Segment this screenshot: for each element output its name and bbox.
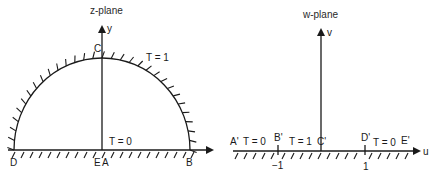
z-point-b-label: B [186,157,193,168]
w-u-axis-label: u [423,146,429,157]
w-point-e-label: E' [401,135,410,146]
z-plane-diagram: z-plane y [7,5,212,168]
z-point-a-label: A [102,157,109,168]
w-plane-diagram: w-plane u v [230,9,429,172]
w-segment-right-label: T = 0 [373,137,396,148]
w-segment-middle-label: T = 1 [289,136,312,147]
w-plane-title: w-plane [302,9,338,20]
w-point-d-label: D' [361,132,370,143]
w-point-c-label: C' [317,136,326,147]
z-point-c-label: C [94,43,101,54]
z-base-boundary-label: T = 0 [109,136,132,147]
w-tick-neg-one-label: −1 [272,160,284,171]
w-segment-left-label: T = 0 [243,136,266,147]
w-point-a-label: A' [230,136,239,147]
w-axis-hatching [235,153,408,159]
w-tick-pos-one-label: 1 [363,161,369,172]
w-point-b-label: B' [274,132,283,143]
z-point-d-label: D [10,157,17,168]
z-y-axis-label: y [107,23,112,34]
z-arc-boundary-label: T = 1 [146,52,169,63]
z-plane-title: z-plane [90,5,123,16]
z-point-e-label: E [94,157,101,168]
w-v-axis-label: v [327,27,332,38]
